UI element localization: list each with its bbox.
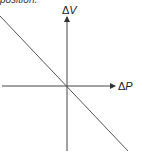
delta-v-vs-delta-p-diagram: ΔV ΔP <box>0 0 149 153</box>
relationship-line <box>0 16 128 151</box>
y-axis-label: ΔV <box>62 4 78 16</box>
x-axis-label: ΔP <box>118 80 133 92</box>
